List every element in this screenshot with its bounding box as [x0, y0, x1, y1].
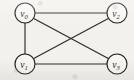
node-v0: v0	[15, 3, 35, 23]
edge-layer	[25, 13, 108, 64]
node-v3-label-subscript: 3	[115, 64, 120, 71]
graph-canvas: v0 v2 v1 v3	[0, 0, 134, 80]
node-v1: v1	[15, 54, 35, 74]
graph-figure: v0 v2 v1 v3	[0, 0, 134, 80]
node-v2: v2	[107, 3, 127, 23]
node-v3: v3	[107, 54, 127, 74]
node-v1-label-subscript: 1	[24, 64, 27, 71]
